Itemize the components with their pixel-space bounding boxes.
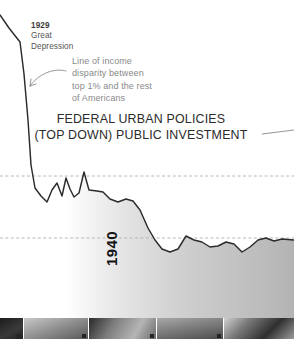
photo-badge-icon <box>217 334 221 338</box>
photo-panel-2[interactable] <box>24 318 89 339</box>
headline-line-1: FEDERAL URBAN POLICIES <box>57 112 226 126</box>
axis-year-label-1940: 1940 <box>103 231 120 266</box>
photo-badge-icon <box>82 334 86 338</box>
disparity-arrow-icon <box>30 70 66 86</box>
annotation-depression-line2: Great <box>31 31 52 40</box>
annotation-income-disparity: Line of income disparity between top 1% … <box>72 55 152 105</box>
photo-panel-5[interactable] <box>224 318 294 339</box>
infographic-chart-panel: 1929GreatDepression Line of income dispa… <box>0 0 294 339</box>
photo-panel-1[interactable] <box>0 318 24 339</box>
annotation-depression-line3: Depression <box>31 42 73 51</box>
annotation-year-1929: 1929 <box>31 21 73 32</box>
photo-badge-icon <box>150 334 154 338</box>
photo-panel-4[interactable] <box>157 318 225 339</box>
photo-panel-3[interactable] <box>89 318 157 339</box>
annotation-great-depression: 1929GreatDepression <box>31 10 73 52</box>
headline-federal-urban-policies: FEDERAL URBAN POLICIES (TOP DOWN) PUBLIC… <box>10 112 272 143</box>
photo-badge-icon <box>17 334 21 338</box>
photo-timeline-strip <box>0 318 294 339</box>
headline-line-2: (TOP DOWN) PUBLIC INVESTMENT <box>10 128 272 144</box>
